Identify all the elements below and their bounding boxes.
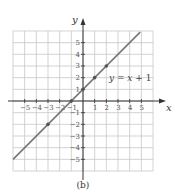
x-tick-label: 2 <box>105 104 109 112</box>
y-tick-label: −4 <box>70 144 81 152</box>
x-tick-label: −4 <box>32 104 43 112</box>
y-tick-label: −5 <box>70 156 80 164</box>
y-tick-label: −2 <box>70 121 80 129</box>
data-point <box>93 76 97 80</box>
x-axis-label: x <box>166 102 172 113</box>
coordinate-plane: −5−4−3−2−112345−5−4−3−2−112345 x y y = x… <box>0 0 177 194</box>
y-tick-label: −1 <box>70 109 80 117</box>
y-axis-label: y <box>71 14 78 25</box>
x-tick-label: 3 <box>116 104 120 112</box>
y-tick-label: 2 <box>76 74 80 82</box>
x-tick-label: 4 <box>128 104 133 112</box>
data-point <box>46 123 50 127</box>
x-tick-label: 5 <box>140 104 144 112</box>
y-tick-label: −3 <box>70 133 80 141</box>
data-point <box>81 88 85 92</box>
y-tick-label: 4 <box>76 51 81 59</box>
data-point <box>70 99 74 103</box>
y-tick-label: 5 <box>76 39 80 47</box>
x-axis-arrow-icon <box>159 99 166 104</box>
x-tick-label: 1 <box>93 104 97 112</box>
y-tick-label: 3 <box>76 62 80 70</box>
equation-label: y = x + 1 <box>108 73 151 83</box>
figure-caption: (b) <box>77 180 90 190</box>
data-point <box>105 64 109 68</box>
x-tick-label: −5 <box>20 104 30 112</box>
y-axis-arrow-icon <box>81 18 86 25</box>
x-tick-label: −3 <box>43 104 53 112</box>
